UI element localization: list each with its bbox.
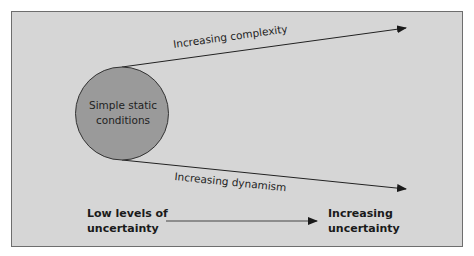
low-uncertainty-label: Low levels of uncertainty	[87, 206, 168, 236]
high-uncertainty-line2: uncertainty	[328, 221, 400, 236]
circle-label: Simple static conditions	[76, 98, 170, 128]
low-uncertainty-line1: Low levels of	[87, 206, 168, 221]
high-uncertainty-line1: Increasing	[328, 206, 400, 221]
low-uncertainty-line2: uncertainty	[87, 221, 168, 236]
circle-label-line1: Simple static	[76, 98, 170, 113]
circle-label-line2: conditions	[76, 113, 170, 128]
high-uncertainty-label: Increasing uncertainty	[328, 206, 400, 236]
